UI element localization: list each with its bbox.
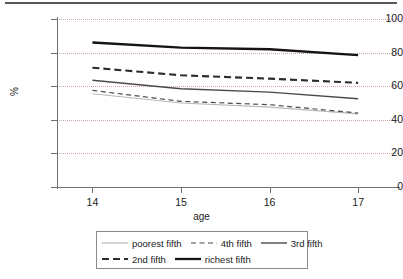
legend-swatch-icon-richest-fifth <box>175 254 201 264</box>
legend-label-2nd-fifth: 2nd fifth <box>132 254 166 265</box>
chart-legend: poorest fifth4th fifth3rd fifth2nd fifth… <box>96 231 308 269</box>
legend-label-4th-fifth: 4th fifth <box>221 238 252 249</box>
chart-figure: 020406080100 14151617 % age poorest fift… <box>0 0 403 279</box>
series-line-2nd-fifth <box>92 68 358 83</box>
legend-label-richest-fifth: richest fifth <box>205 254 251 265</box>
legend-item-poorest-fifth[interactable]: poorest fifth <box>102 238 182 249</box>
legend-swatch-icon-poorest-fifth <box>102 238 128 248</box>
legend-item-4th-fifth[interactable]: 4th fifth <box>191 238 252 249</box>
legend-row-2: 2nd fifthrichest fifth <box>102 251 302 267</box>
legend-row-1: poorest fifth4th fifth3rd fifth <box>102 235 302 251</box>
series-line-4th-fifth <box>92 90 358 113</box>
series-line-3rd-fifth <box>92 80 358 98</box>
legend-label-3rd-fifth: 3rd fifth <box>291 238 323 249</box>
legend-swatch-icon-3rd-fifth <box>261 238 287 248</box>
legend-item-2nd-fifth[interactable]: 2nd fifth <box>102 254 166 265</box>
legend-swatch-icon-4th-fifth <box>191 238 217 248</box>
series-line-poorest-fifth <box>92 94 358 114</box>
legend-item-richest-fifth[interactable]: richest fifth <box>175 254 251 265</box>
legend-item-3rd-fifth[interactable]: 3rd fifth <box>261 238 323 249</box>
series-line-richest-fifth <box>92 43 358 56</box>
legend-swatch-icon-2nd-fifth <box>102 254 128 264</box>
legend-label-poorest-fifth: poorest fifth <box>132 238 182 249</box>
